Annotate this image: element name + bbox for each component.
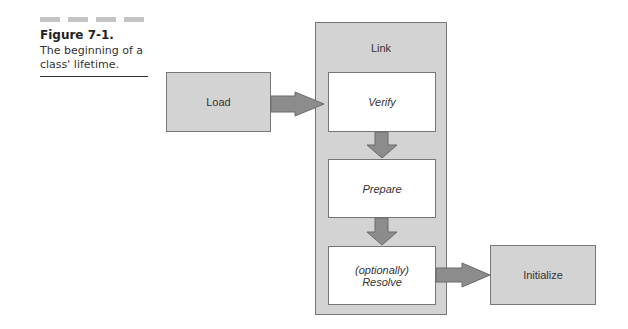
arrows-layer bbox=[0, 0, 628, 329]
arrow-down-icon bbox=[367, 218, 397, 245]
arrow-down-icon bbox=[367, 132, 397, 158]
arrow-right-icon bbox=[436, 263, 490, 287]
arrow-right-icon bbox=[271, 92, 324, 116]
